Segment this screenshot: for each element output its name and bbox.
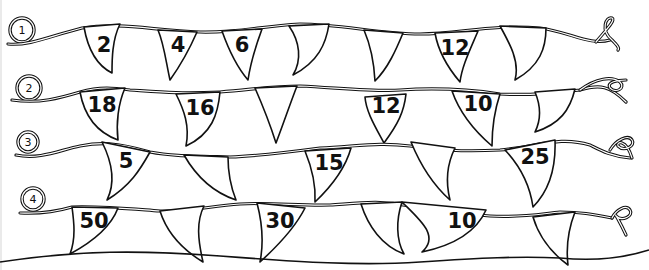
svg-text:6: 6 bbox=[235, 33, 250, 57]
svg-text:4: 4 bbox=[171, 33, 186, 57]
page-edge bbox=[0, 0, 2, 270]
flag: 12 bbox=[435, 31, 478, 82]
flag: 10 bbox=[452, 91, 500, 146]
svg-text:16: 16 bbox=[185, 96, 214, 120]
ground-line bbox=[0, 250, 649, 264]
flag: 16 bbox=[176, 92, 220, 146]
flag bbox=[289, 24, 329, 75]
svg-text:1: 1 bbox=[19, 24, 26, 37]
flag: 12 bbox=[365, 94, 406, 143]
svg-text:50: 50 bbox=[79, 209, 108, 233]
bunting-row-2: 2 18 16 12 10 bbox=[12, 76, 626, 146]
flag bbox=[184, 155, 236, 200]
svg-text:10: 10 bbox=[447, 209, 476, 233]
svg-text:25: 25 bbox=[520, 145, 549, 169]
flag: 30 bbox=[257, 203, 305, 262]
svg-text:5: 5 bbox=[119, 149, 134, 173]
svg-text:12: 12 bbox=[440, 36, 469, 60]
row-label-4: 4 bbox=[22, 188, 44, 210]
svg-text:18: 18 bbox=[87, 93, 116, 117]
flag bbox=[255, 86, 297, 143]
flag: 10 bbox=[402, 202, 486, 252]
row-label-2: 2 bbox=[17, 76, 41, 100]
svg-text:15: 15 bbox=[314, 151, 343, 175]
svg-text:4: 4 bbox=[30, 193, 37, 206]
svg-text:2: 2 bbox=[97, 33, 112, 57]
row-label-3: 3 bbox=[18, 132, 38, 152]
svg-text:12: 12 bbox=[371, 94, 400, 118]
bunting-row-3: 3 5 15 25 bbox=[16, 132, 633, 207]
flag bbox=[500, 26, 546, 80]
flag: 6 bbox=[222, 29, 262, 80]
flag: 4 bbox=[158, 30, 197, 80]
bunting-row-1: 1 2 4 6 12 bbox=[8, 18, 619, 82]
svg-text:3: 3 bbox=[25, 136, 32, 149]
flag: 18 bbox=[80, 88, 125, 140]
loop-tie-icon bbox=[596, 18, 619, 50]
flag: 5 bbox=[102, 142, 150, 200]
svg-text:2: 2 bbox=[26, 82, 33, 95]
flag: 25 bbox=[505, 140, 555, 207]
flag: 50 bbox=[70, 207, 118, 254]
bunting-diagram: 1 2 4 6 12 bbox=[0, 0, 649, 270]
svg-text:10: 10 bbox=[463, 92, 492, 116]
loop-tie-icon bbox=[612, 208, 631, 235]
flag bbox=[361, 202, 404, 254]
flag: 2 bbox=[84, 24, 120, 73]
flag: 15 bbox=[305, 148, 351, 202]
flag bbox=[411, 142, 455, 200]
flag bbox=[364, 30, 403, 81]
flag bbox=[535, 89, 575, 132]
row-label-1: 1 bbox=[10, 18, 34, 42]
svg-text:30: 30 bbox=[265, 209, 294, 233]
